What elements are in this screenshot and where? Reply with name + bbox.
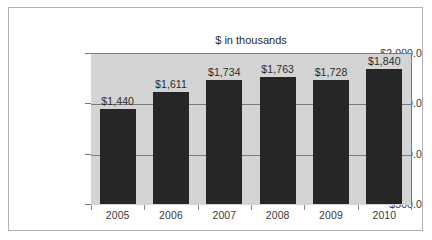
x-tick-mark <box>411 205 412 210</box>
x-tick-mark <box>251 205 252 210</box>
x-tick-mark <box>358 205 359 210</box>
x-tick-mark <box>91 205 92 210</box>
x-tick-label: 2007 <box>194 209 254 221</box>
x-tick-label: 2005 <box>88 209 148 221</box>
x-tick-mark <box>198 205 199 210</box>
bar-value-label: $1,728 <box>301 66 361 78</box>
x-tick-label: 2010 <box>354 209 414 221</box>
bar <box>366 69 402 204</box>
bar-value-label: $1,611 <box>141 78 201 90</box>
bar <box>153 92 189 204</box>
bar-value-label: $1,734 <box>194 66 254 78</box>
x-tick-mark <box>144 205 145 210</box>
gridline <box>91 155 411 156</box>
chart-frame: $ in thousands $500.0$1,000.0$1,500.0$2,… <box>8 7 423 231</box>
bar <box>313 80 349 204</box>
x-tick-label: 2008 <box>248 209 308 221</box>
bar-value-label: $1,840 <box>354 55 414 67</box>
chart-title: $ in thousands <box>91 34 411 46</box>
bar-value-label: $1,763 <box>248 63 308 75</box>
x-tick-mark <box>304 205 305 210</box>
x-tick-label: 2009 <box>301 209 361 221</box>
bar-value-label: $1,440 <box>88 95 148 107</box>
x-tick-label: 2006 <box>141 209 201 221</box>
bar <box>100 109 136 204</box>
bar <box>260 77 296 204</box>
bar <box>206 80 242 204</box>
